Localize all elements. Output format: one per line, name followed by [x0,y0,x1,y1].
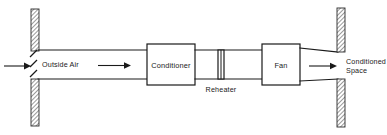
conditioner-unit: Conditioner [147,44,195,85]
left-wall-upper-segment [31,9,39,51]
conditioned-space-label: Conditioned Space [346,57,386,75]
hvac-schematic-diagram: Outside Air Conditioner Reheater Fan [0,0,387,135]
diagram-canvas: Outside Air Conditioner Reheater Fan [0,0,387,135]
left-wall-lower-segment [31,79,39,126]
outside-air-louver-icon [30,50,37,77]
conditioner-label: Conditioner [151,61,191,70]
fan-unit: Fan [262,44,300,85]
fan-label: Fan [274,61,287,70]
right-wall-upper-segment [337,8,345,52]
left-wall [31,9,39,126]
right-wall [337,8,345,127]
reheater-label: Reheater [206,85,237,94]
duct-reheat-section [195,50,262,79]
reheater-unit: Reheater [206,50,237,94]
inlet-arrow [4,63,31,70]
right-wall-lower-segment [337,79,345,127]
duct-arrow [98,62,131,68]
outlet-arrow [309,63,337,69]
outside-air-label: Outside Air [42,60,79,69]
conditioned-space-line2: Space [346,66,367,75]
conditioned-space-line1: Conditioned [346,57,386,66]
